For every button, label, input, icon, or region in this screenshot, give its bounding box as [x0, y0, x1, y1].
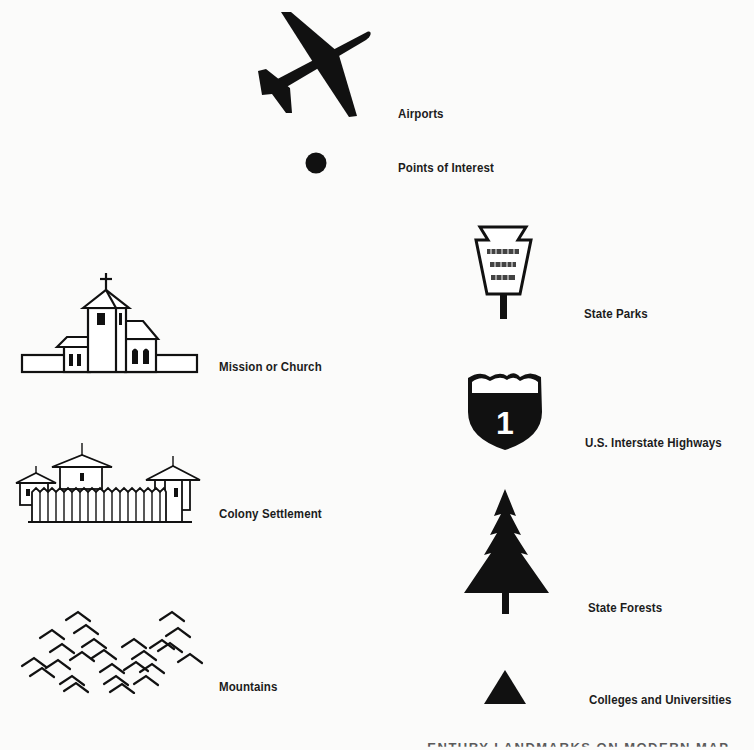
cutoff-caption: ...ENTURY LANDMARKS ON MODERN MAP: [412, 740, 729, 750]
legend-label-mountains: Mountains: [219, 680, 277, 694]
legend-label-state-forests: State Forests: [588, 601, 662, 615]
map-legend: Airports Points of Interest S: [0, 0, 754, 750]
keystone-sign-icon: [466, 224, 536, 322]
legend-label-interstate-highways: U.S. Interstate Highways: [585, 436, 722, 450]
legend-label-airports: Airports: [398, 107, 444, 121]
interstate-shield-icon: 1: [464, 370, 546, 452]
legend-label-colony-settlement: Colony Settlement: [219, 507, 322, 521]
fort-icon: [14, 440, 204, 526]
legend-label-colleges-and-universities: Colleges and Universities: [589, 693, 732, 707]
mountains-icon: [16, 606, 206, 694]
triangle-icon: [482, 668, 528, 706]
pine-tree-icon: [462, 486, 554, 616]
legend-label-points-of-interest: Points of Interest: [398, 161, 494, 175]
legend-label-mission-or-church: Mission or Church: [219, 360, 322, 374]
shield-number: 1: [496, 405, 514, 441]
legend-label-state-parks: State Parks: [584, 307, 648, 321]
airplane-icon: [250, 5, 375, 125]
dot-icon: [305, 152, 327, 174]
church-icon: [18, 270, 200, 376]
